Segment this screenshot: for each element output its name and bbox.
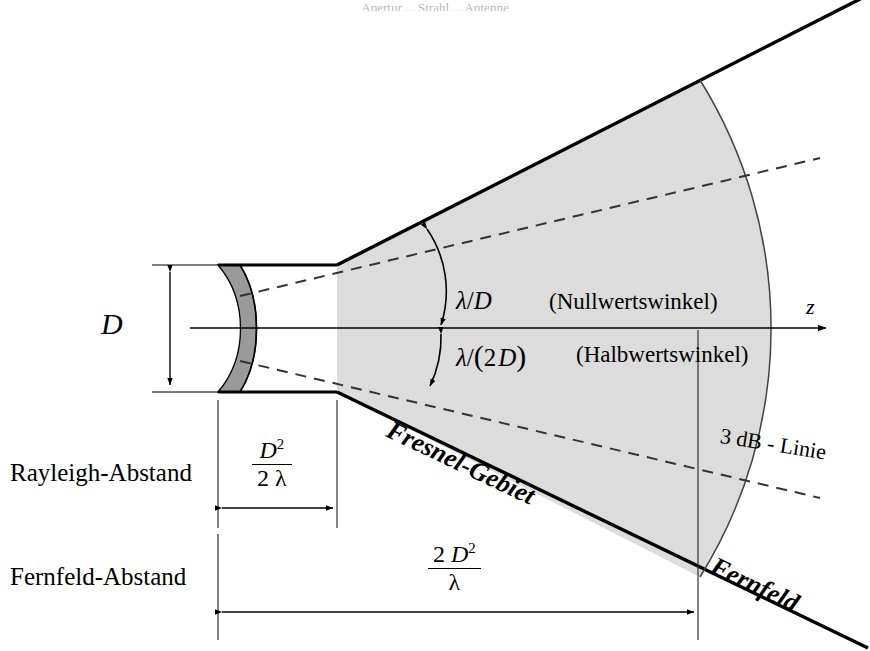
- rayleigh-den: 2 λ: [252, 465, 292, 491]
- far-field-num: D: [451, 541, 468, 567]
- rayleigh-distance-label: Rayleigh-Abstand: [10, 460, 192, 485]
- aperture-diameter-label: D: [101, 309, 123, 339]
- rayleigh-num-exp: 2: [277, 436, 284, 452]
- half-power-angle-name: (Halbwertswinkel): [576, 343, 748, 366]
- null-width-angle-formula: λ/D: [456, 288, 492, 313]
- far-field-distance-formula: 2 D2 λ: [428, 541, 481, 595]
- z-axis-label: z: [806, 296, 815, 318]
- far-field-num-exp: 2: [468, 540, 475, 556]
- null-width-angle-name: (Nullwertswinkel): [549, 290, 718, 313]
- half-power-angle-formula: λ/(2D): [456, 341, 526, 371]
- rayleigh-num: D: [259, 437, 276, 463]
- far-field-coeff: 2: [433, 541, 451, 567]
- fresnel-shaded-region: [337, 0, 870, 651]
- far-field-distance-label: Fernfeld-Abstand: [10, 564, 186, 589]
- rayleigh-distance-formula: D2 2 λ: [252, 437, 292, 491]
- figure-canvas: Apertur ... Strahl ... Antenne: [0, 0, 870, 651]
- far-field-den: λ: [428, 569, 481, 595]
